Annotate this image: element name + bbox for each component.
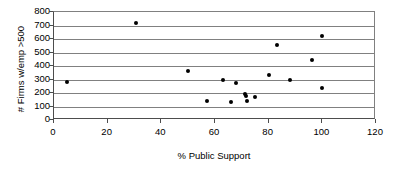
y-axis-tick-label: 400 <box>18 60 50 70</box>
x-axis-tick-label: 100 <box>301 126 341 138</box>
y-axis-tick-label: 500 <box>18 47 50 57</box>
gridline <box>54 39 374 40</box>
y-axis-tick-label: 0 <box>18 114 50 124</box>
scatter-chart: # Firms w/emp >500 010020030040050060070… <box>0 0 396 178</box>
x-axis-tick-label: 0 <box>33 126 73 138</box>
x-axis-tick-mark <box>53 119 54 123</box>
x-axis-tick-label: 60 <box>194 126 234 138</box>
data-point <box>320 86 324 90</box>
data-point <box>221 78 225 82</box>
data-point <box>244 94 248 98</box>
data-point <box>65 80 69 84</box>
y-axis-tick-label: 100 <box>18 101 50 111</box>
y-axis-tick-mark <box>49 106 53 107</box>
y-axis-tick-label: 200 <box>18 87 50 97</box>
data-point <box>267 73 271 77</box>
gridline <box>54 53 374 54</box>
y-axis-tick-label: 300 <box>18 74 50 84</box>
y-axis-tick-labels: 0100200300400500600700800 <box>18 0 50 178</box>
x-axis-tick-mark <box>321 119 322 123</box>
gridline <box>54 93 374 94</box>
data-point <box>186 69 190 73</box>
data-point <box>253 95 257 99</box>
y-axis-tick-label: 700 <box>18 20 50 30</box>
data-point <box>229 100 233 104</box>
y-axis-tick-mark <box>49 25 53 26</box>
x-axis-tick-labels: 020406080100120 <box>0 126 396 140</box>
x-axis-title: % Public Support <box>53 150 375 162</box>
y-axis-tick-label: 600 <box>18 33 50 43</box>
plot-area <box>53 11 375 119</box>
x-axis-tick-mark <box>107 119 108 123</box>
y-axis-tick-mark <box>49 38 53 39</box>
data-point <box>205 99 209 103</box>
y-axis-tick-mark <box>49 79 53 80</box>
data-point <box>134 21 138 25</box>
data-point <box>288 78 292 82</box>
x-axis-tick-mark <box>268 119 269 123</box>
data-point <box>275 43 279 47</box>
data-point <box>234 81 238 85</box>
x-axis-tick-mark <box>214 119 215 123</box>
x-axis-tick-mark <box>375 119 376 123</box>
data-point <box>320 34 324 38</box>
y-axis-tick-mark <box>49 52 53 53</box>
y-axis-tick-label: 800 <box>18 6 50 16</box>
x-axis-tick-label: 40 <box>140 126 180 138</box>
gridline <box>54 66 374 67</box>
data-point <box>245 99 249 103</box>
x-axis-tick-label: 120 <box>355 126 395 138</box>
gridline <box>54 26 374 27</box>
gridline <box>54 107 374 108</box>
x-axis-tick-mark <box>160 119 161 123</box>
data-point <box>310 58 314 62</box>
y-axis-tick-mark <box>49 92 53 93</box>
y-axis-tick-mark <box>49 11 53 12</box>
y-axis-tick-mark <box>49 65 53 66</box>
gridline <box>54 80 374 81</box>
x-axis-tick-label: 20 <box>87 126 127 138</box>
x-axis-tick-label: 80 <box>248 126 288 138</box>
